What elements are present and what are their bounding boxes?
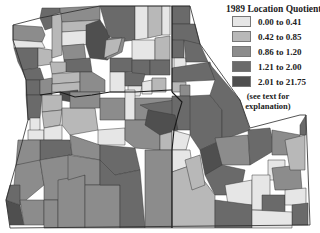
county xyxy=(28,130,44,140)
county xyxy=(300,115,306,135)
county xyxy=(135,6,148,40)
county xyxy=(132,40,155,60)
county xyxy=(26,95,42,120)
county xyxy=(58,175,85,228)
county xyxy=(44,200,58,228)
county xyxy=(62,108,98,135)
legend-item: 0.86 to 1.20 xyxy=(232,44,320,59)
county xyxy=(64,58,92,72)
county xyxy=(285,135,305,170)
county xyxy=(20,200,44,225)
county xyxy=(172,40,184,58)
county xyxy=(155,36,170,60)
legend-label: 0.42 to 0.85 xyxy=(258,32,302,42)
county xyxy=(145,150,172,228)
county xyxy=(248,128,275,165)
county xyxy=(150,60,170,75)
legend-label: 0.86 to 1.20 xyxy=(258,47,302,57)
county xyxy=(98,128,125,145)
legend-title: 1989 Location Quotients xyxy=(226,4,320,14)
county xyxy=(14,48,38,70)
legend-label: 1.21 to 2.00 xyxy=(258,62,302,72)
county xyxy=(38,48,52,66)
county xyxy=(162,6,170,35)
county xyxy=(13,25,45,42)
county xyxy=(52,12,62,58)
legend-label: 0.00 to 0.41 xyxy=(258,17,302,27)
legend-note: (see text for explanation) xyxy=(228,91,308,111)
county xyxy=(85,185,120,228)
county xyxy=(110,72,125,92)
county xyxy=(172,130,190,150)
county xyxy=(50,62,66,74)
county xyxy=(110,58,132,72)
county xyxy=(60,6,100,22)
county xyxy=(180,85,190,96)
legend-swatch xyxy=(232,76,251,87)
legend-item: 0.00 to 0.41 xyxy=(232,14,320,29)
county xyxy=(125,90,135,120)
county xyxy=(292,203,308,225)
legend-item: 0.42 to 0.85 xyxy=(232,29,320,44)
county xyxy=(26,80,40,95)
legend-item: 1.21 to 2.00 xyxy=(232,59,320,74)
legend: 1989 Location Quotients 0.00 to 0.41 0.4… xyxy=(232,4,320,111)
legend-swatch xyxy=(232,61,251,72)
county xyxy=(285,188,306,205)
county xyxy=(100,98,125,120)
county xyxy=(184,40,208,62)
county xyxy=(40,78,52,95)
legend-swatch xyxy=(232,46,251,57)
legend-swatch xyxy=(232,16,251,27)
legend-item: 2.01 to 21.75 xyxy=(232,74,320,89)
county xyxy=(42,95,62,112)
county xyxy=(80,72,105,92)
legend-note-line: explanation) xyxy=(228,101,308,111)
county xyxy=(215,200,252,228)
county xyxy=(148,6,162,38)
legend-label: 2.01 to 21.75 xyxy=(258,77,306,87)
legend-note-line: (see text for xyxy=(228,91,308,101)
legend-swatch xyxy=(232,31,251,42)
county xyxy=(62,44,86,60)
county xyxy=(172,6,190,24)
